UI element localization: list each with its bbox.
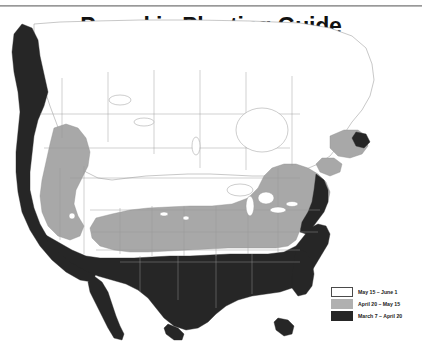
- legend-item-late: May 15 – June 1: [331, 286, 407, 297]
- great-slave-lake: [134, 118, 154, 126]
- lake-small-plains-a: [160, 212, 168, 216]
- legend-item-mid: April 20 – May 15: [331, 298, 407, 309]
- legend-swatch-early: [331, 311, 353, 321]
- map-legend: May 15 – June 1 April 20 – May 15 March …: [331, 286, 407, 322]
- legend-swatch-late: [331, 287, 353, 297]
- header-divider: [0, 5, 422, 7]
- great-bear-lake: [109, 95, 131, 105]
- legend-label-late: May 15 – June 1: [358, 287, 398, 297]
- legend-item-early: March 7 – April 20: [331, 310, 407, 321]
- zone-mid-shape-northwest: [40, 124, 90, 240]
- zone-early-shape-baja: [88, 276, 124, 340]
- hudson-bay: [236, 108, 288, 152]
- lake-winnipeg: [192, 137, 200, 155]
- zone-early-shape-yucatan: [274, 318, 294, 336]
- lake-small-plains-b: [183, 216, 189, 220]
- legend-label-early: March 7 – April 20: [358, 311, 402, 321]
- lake-ontario: [286, 202, 298, 207]
- lake-superior: [227, 184, 253, 196]
- great-salt-lake: [69, 213, 75, 219]
- lake-huron: [258, 192, 274, 204]
- pumpkin-planting-guide-page: Pumpkin Planting Guide: [0, 0, 422, 347]
- legend-swatch-mid: [331, 299, 353, 309]
- zone-mid-shape-nova-scotia: [316, 158, 342, 176]
- lake-erie: [270, 207, 286, 213]
- legend-label-mid: April 20 – May 15: [358, 299, 400, 309]
- lake-michigan: [246, 196, 254, 216]
